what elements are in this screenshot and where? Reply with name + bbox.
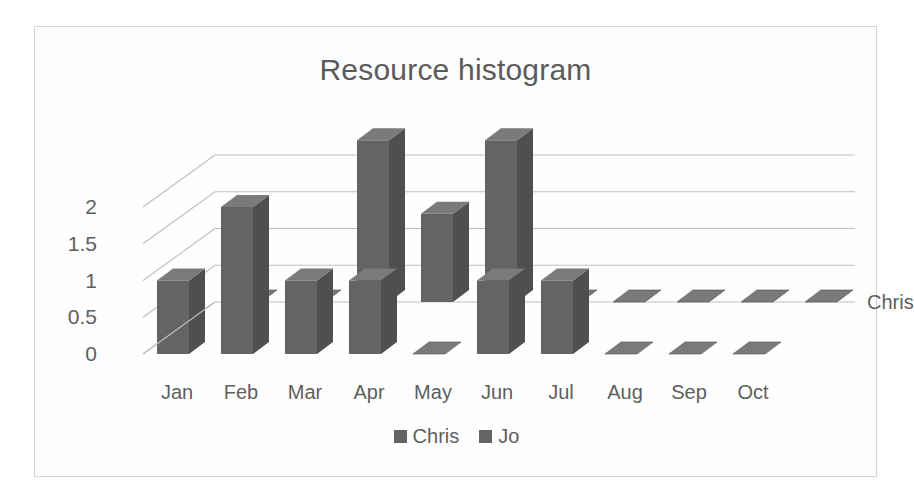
chart-legend: ChrisJo [35,425,878,448]
x-axis-tick-label: Apr [353,382,384,402]
legend-entry-jo[interactable]: Jo [479,425,519,448]
legend-swatch-icon [394,430,407,443]
x-axis-tick-label: Feb [224,382,258,402]
plot-area: 00.511.52 JanFebMarAprMayJunJulAugSepOct… [35,27,878,478]
x-axis-tick-label: Mar [288,382,322,402]
x-axis-tick-label: Jun [481,382,513,402]
legend-label: Jo [498,425,519,448]
x-axis-tick-label: Aug [607,382,643,402]
x-axis-tick-label: May [414,382,452,402]
x-axis-tick-label: Jan [161,382,193,402]
x-axis-tick-label: Sep [671,382,707,402]
legend-label: Chris [413,425,460,448]
x-axis: JanFebMarAprMayJunJulAugSepOct [35,27,878,478]
chart-frame: Resource histogram 00.511.52 JanFebMarAp… [34,26,877,477]
x-axis-tick-label: Oct [737,382,768,402]
depth-axis-label: Chris [867,292,914,312]
legend-swatch-icon [479,430,492,443]
x-axis-tick-label: Jul [548,382,574,402]
legend-entry-chris[interactable]: Chris [394,425,460,448]
